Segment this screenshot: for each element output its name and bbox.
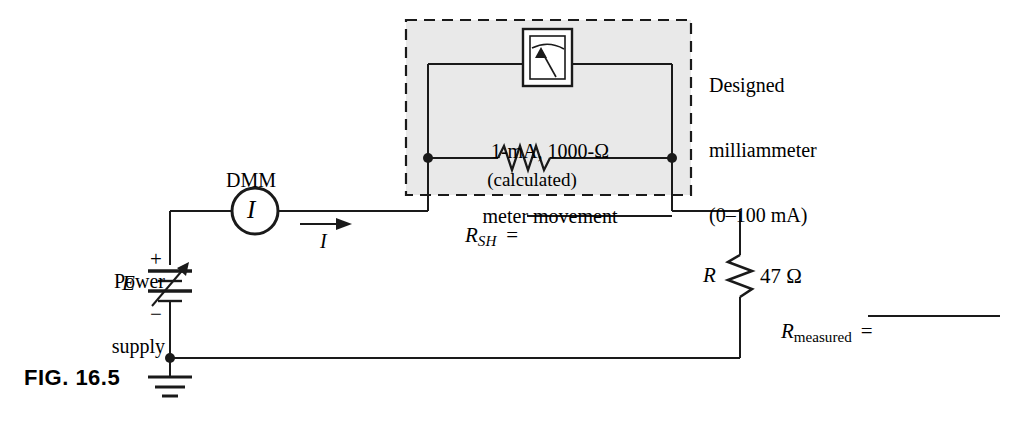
figure-16-5: Designed milliammeter (0–100 mA) 1-mA, 1… [0, 0, 1030, 422]
shunt-calculated-note: (calculated) [462, 170, 602, 191]
designed-milliammeter-label: Designed milliammeter (0–100 mA) [709, 32, 817, 270]
dmm-label: DMM [226, 170, 276, 192]
figure-id-label: FIG. 16.5 [24, 366, 120, 390]
shunt-resistance-equation: RSH= [444, 201, 528, 272]
current-label: I [320, 231, 327, 253]
measured-resistance-equals: = [861, 319, 873, 343]
source-symbol-label: E [122, 272, 135, 295]
designed-milliammeter-line3: (0–100 mA) [709, 205, 817, 227]
measured-resistance-symbol: R [781, 319, 794, 343]
current-direction-arrow-icon [300, 218, 352, 230]
analog-meter-movement-icon [523, 29, 572, 86]
designed-milliammeter-line2: milliammeter [709, 140, 817, 162]
power-supply-line1: Power [60, 271, 165, 293]
source-plus-sign: + [150, 248, 162, 271]
shunt-resistance-subscript: SH [478, 233, 496, 249]
load-resistor-symbol: R [703, 264, 716, 287]
shunt-resistance-equals: = [506, 223, 518, 247]
meter-movement-line1: 1-mA, 1000-Ω [430, 141, 670, 163]
designed-milliammeter-line1: Designed [709, 75, 817, 97]
power-supply-line2: supply [60, 336, 165, 358]
load-resistor-value: 47 Ω [760, 265, 802, 288]
source-minus-sign: − [150, 303, 162, 326]
measured-resistance-equation: Rmeasured= [760, 297, 883, 368]
measured-resistance-subscript: measured [794, 329, 852, 345]
dmm-symbol-label: I [247, 196, 255, 223]
shunt-resistance-symbol: R [465, 223, 478, 247]
